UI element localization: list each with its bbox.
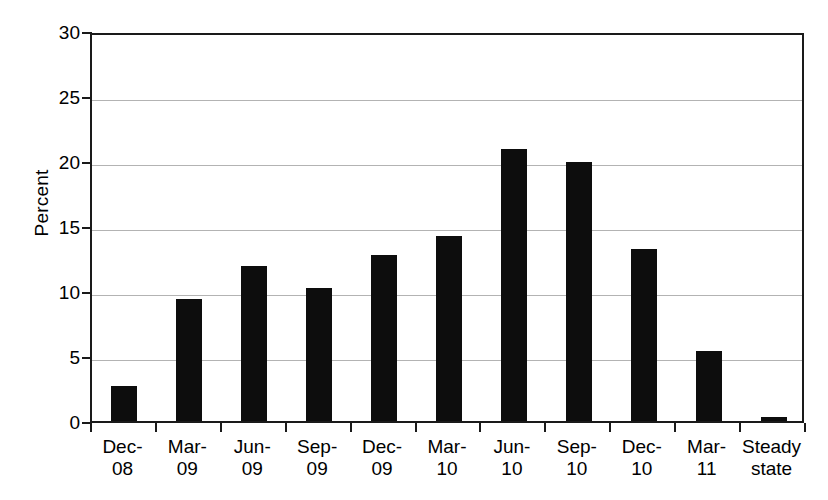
- bar-slot: [481, 35, 546, 421]
- bar-chart-figure: Percent 051015202530 Dec-08Mar-09Jun-09S…: [0, 0, 828, 500]
- x-tick-mark: [415, 423, 417, 432]
- bar: [306, 288, 332, 421]
- y-tick-label: 25: [40, 88, 80, 107]
- x-tick-mark: [350, 423, 352, 432]
- bar-slot: [92, 35, 157, 421]
- x-tick-mark: [804, 423, 806, 432]
- bar: [436, 236, 462, 421]
- bar: [566, 162, 592, 421]
- x-tick-label: Steadystate: [733, 436, 810, 480]
- x-tick-mark: [155, 423, 157, 432]
- x-tick-mark: [674, 423, 676, 432]
- bar: [241, 266, 267, 421]
- bar: [371, 255, 397, 421]
- bar: [761, 417, 787, 421]
- bar-slot: [546, 35, 611, 421]
- x-tick-label-line: state: [733, 458, 810, 480]
- bar-slot: [676, 35, 741, 421]
- bar-slot: [417, 35, 482, 421]
- x-tick-mark: [544, 423, 546, 432]
- bar-slot: [157, 35, 222, 421]
- y-tick-label: 0: [40, 413, 80, 432]
- bar-slot: [222, 35, 287, 421]
- x-tick-mark: [479, 423, 481, 432]
- bar: [696, 351, 722, 421]
- x-tick-mark: [220, 423, 222, 432]
- x-tick-mark: [90, 423, 92, 432]
- y-tick-label: 30: [40, 23, 80, 42]
- bar-slot: [352, 35, 417, 421]
- y-tick-label: 10: [40, 283, 80, 302]
- bar-slot: [287, 35, 352, 421]
- x-tick-mark: [739, 423, 741, 432]
- bar-slot: [741, 35, 806, 421]
- x-tick-mark: [285, 423, 287, 432]
- y-tick-label: 20: [40, 153, 80, 172]
- bar: [631, 249, 657, 421]
- plot-area: [90, 33, 804, 423]
- bar-slot: [611, 35, 676, 421]
- y-tick-label: 5: [40, 348, 80, 367]
- y-tick-label: 15: [40, 218, 80, 237]
- bar: [176, 299, 202, 421]
- x-tick-mark: [609, 423, 611, 432]
- x-tick-label-line: Steady: [733, 436, 810, 458]
- bar: [501, 149, 527, 421]
- bar: [111, 386, 137, 421]
